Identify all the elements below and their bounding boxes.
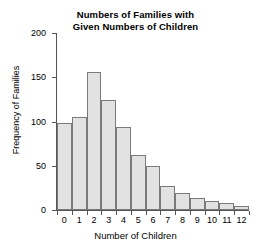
x-tick-mark [190, 211, 191, 215]
x-tick-mark [146, 211, 147, 215]
y-tick-mark [52, 122, 56, 123]
x-tick-mark [72, 211, 73, 215]
x-tick-label: 12 [233, 216, 251, 225]
bar [234, 206, 249, 210]
y-tick-label: 0 [20, 206, 46, 215]
bar-series [57, 33, 249, 210]
x-tick-mark [131, 211, 132, 215]
chart-container: Numbers of Families with Given Numbers o… [0, 0, 271, 250]
x-tick-mark [234, 211, 235, 215]
x-tick-mark [116, 211, 117, 215]
y-tick-label: 150 [20, 73, 46, 82]
x-tick-mark [205, 211, 206, 215]
x-axis-title: Number of Children [0, 230, 271, 241]
x-tick-mark [87, 211, 88, 215]
bar [160, 186, 175, 210]
bar [116, 127, 131, 210]
y-tick-mark [52, 33, 56, 34]
bar [57, 123, 72, 210]
y-axis-title: Frequency of Families [11, 40, 21, 180]
bar [219, 203, 234, 210]
x-tick-mark [249, 211, 250, 215]
x-axis-line [56, 210, 249, 211]
bar [131, 155, 146, 210]
bar [190, 198, 205, 210]
y-tick-mark [52, 166, 56, 167]
x-tick-mark [101, 211, 102, 215]
y-tick-mark [52, 77, 56, 78]
bar [205, 201, 220, 210]
x-tick-mark [175, 211, 176, 215]
chart-title-line-1: Numbers of Families with [0, 9, 271, 21]
x-tick-mark [160, 211, 161, 215]
bar [87, 72, 102, 210]
x-tick-mark [57, 211, 58, 215]
x-tick-mark [219, 211, 220, 215]
y-tick-label: 50 [20, 162, 46, 171]
y-tick-label: 200 [20, 29, 46, 38]
y-tick-label: 100 [20, 118, 46, 127]
bar [146, 166, 161, 210]
y-tick-mark [52, 210, 56, 211]
bar [175, 193, 190, 210]
bar [72, 117, 87, 210]
bar [101, 100, 116, 210]
